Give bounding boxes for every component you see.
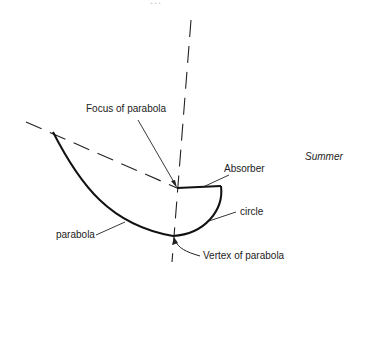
sun-ray-dashed [26, 122, 177, 188]
collector-diagram [0, 0, 366, 356]
absorber-leader [203, 175, 229, 187]
parabola-curve [53, 132, 173, 236]
label-vertex: Vertex of parabola [203, 251, 284, 261]
parabola-axis-dashed [172, 20, 191, 262]
label-season: Summer [305, 152, 343, 162]
focus-leader [138, 120, 175, 184]
circle-arc [173, 186, 221, 236]
absorber-edge [177, 186, 221, 188]
parabola-leader [96, 222, 125, 235]
label-circle: circle [240, 207, 263, 217]
vertex-leader [175, 240, 200, 256]
label-absorber: Absorber [224, 164, 265, 174]
label-focus: Focus of parabola [86, 104, 166, 114]
label-parabola: parabola [56, 230, 95, 240]
cropped-header-text: ... [150, 0, 162, 6]
